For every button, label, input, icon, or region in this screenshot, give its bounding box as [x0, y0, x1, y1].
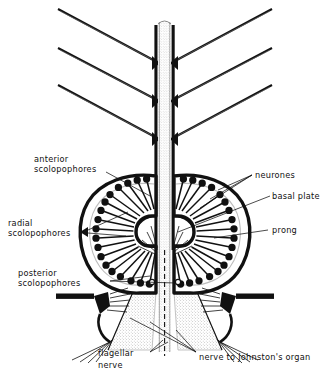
- figure-canvas: anterior scolopophores radial scolopopho…: [0, 0, 330, 375]
- label-flagellar-nerve-line1: flagellar: [98, 348, 134, 358]
- label-anterior-scolopophores-line1: anterior: [34, 154, 69, 164]
- pedicel-wall-right: [174, 292, 222, 350]
- label-radial-scolopophores-line1: radial: [8, 218, 33, 228]
- label-anterior-scolopophores-line2: scolopophores: [34, 164, 96, 174]
- label-posterior-scolopophores-line2: scolopophores: [18, 278, 80, 288]
- label-basal-plate: basal plate: [272, 191, 320, 201]
- scolopophore-organ-left: [80, 175, 157, 293]
- antennal-hair-right-1: [173, 9, 272, 62]
- label-radial-scolopophores-line2: scolopophores: [8, 228, 70, 238]
- label-posterior-scolopophores-line1: posterior: [18, 268, 57, 278]
- label-nerve-to-johnstons-organ: nerve to Johnston's organ: [199, 352, 310, 362]
- johnstons-organ-diagram: anterior scolopophores radial scolopopho…: [0, 0, 330, 375]
- prong-attachment-right: [175, 279, 180, 284]
- antennal-hair-left-1: [58, 9, 157, 62]
- label-prong: prong: [272, 225, 297, 235]
- pedicel-wall-left: [108, 292, 156, 350]
- label-flagellar-nerve-line2: nerve: [98, 360, 123, 370]
- label-neurones: neurones: [255, 170, 295, 180]
